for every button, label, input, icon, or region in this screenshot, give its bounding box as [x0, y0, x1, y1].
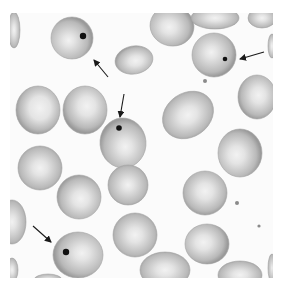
- howell-jolly-body: [116, 125, 122, 131]
- red-blood-cell: [108, 165, 148, 205]
- red-blood-cell: [51, 17, 93, 59]
- red-blood-cell: [53, 232, 103, 278]
- red-blood-cell: [18, 146, 62, 190]
- blood-smear-image: arrow pointing to inclusion in upper-lef…: [0, 0, 283, 290]
- howell-jolly-body: [223, 57, 228, 62]
- debris-particle: [203, 79, 207, 83]
- red-blood-cell: [185, 224, 229, 264]
- red-blood-cell: [183, 171, 227, 215]
- red-blood-cell: [63, 86, 107, 134]
- howell-jolly-body: [63, 249, 69, 255]
- debris-particle: [257, 224, 260, 227]
- red-blood-cell: [57, 175, 101, 219]
- red-blood-cell: [192, 33, 236, 77]
- red-blood-cell: [113, 213, 157, 257]
- red-blood-cell: [238, 75, 276, 119]
- red-blood-cell: [218, 129, 262, 177]
- red-blood-cell: [16, 86, 60, 134]
- debris-particle: [235, 201, 239, 205]
- howell-jolly-body: [80, 33, 86, 39]
